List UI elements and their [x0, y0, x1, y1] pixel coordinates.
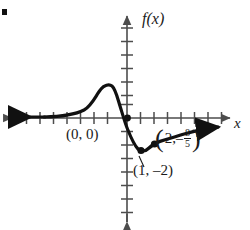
fraction-8-over-5: 8 5 [184, 128, 191, 149]
graph-figure: f(x) x (0, 0) (1, –2) ( 2, – 8 5 ) [0, 0, 250, 230]
paren-open: ( [155, 128, 164, 149]
x-axis-label: x [234, 116, 241, 131]
annotation-origin: (0, 0) [66, 127, 99, 142]
point-dot-origin [124, 115, 131, 122]
annotation-minimum: (1, –2) [133, 163, 173, 178]
coordinate-plane [0, 0, 250, 230]
curve-right-arrow [205, 127, 218, 128]
point-dot-minimum [137, 147, 144, 154]
point2-minus-sign: – [176, 132, 183, 146]
annotation-point-2-neg-8-over-5: ( 2, – 8 5 ) [155, 128, 201, 149]
point2-x-value: 2, [165, 131, 176, 146]
y-axis-label: f(x) [142, 11, 164, 27]
paren-close: ) [192, 128, 201, 149]
fraction-denominator: 5 [184, 138, 191, 149]
fraction-numerator: 8 [184, 128, 191, 138]
